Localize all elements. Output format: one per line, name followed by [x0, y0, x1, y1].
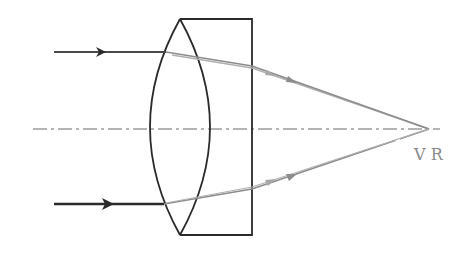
- glass-block: [180, 19, 252, 235]
- refracted-rays-upper: [166, 52, 429, 129]
- ray-gap: [396, 140, 400, 142]
- arrow-icon-refracted-lower-2: [265, 179, 276, 186]
- arrow-icon-refracted-lower: [286, 174, 297, 181]
- refracted-ray-lower-v: [164, 129, 429, 204]
- lens-diagram: V R: [0, 0, 466, 257]
- refracted-ray-upper-r: [166, 52, 429, 129]
- biconvex-lens-right-surface: [180, 19, 210, 235]
- focus-label: V R: [413, 145, 444, 164]
- arrow-icon-refracted-upper-2: [265, 70, 276, 76]
- arrow-icon-refracted-upper: [286, 76, 297, 83]
- refracted-rays-lower: [164, 129, 429, 204]
